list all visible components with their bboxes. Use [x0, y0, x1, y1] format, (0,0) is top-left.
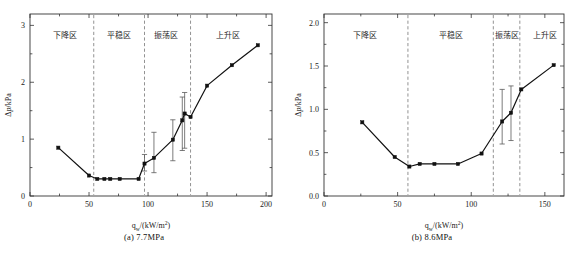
chart-panel-b: 0.00.51.01.52.0050100150下降区平稳区振荡区上升区qw/(…	[288, 0, 576, 253]
x-tick-label: 50	[85, 200, 93, 209]
data-point-marker	[501, 120, 504, 123]
plot-frame	[324, 14, 564, 196]
data-point-marker	[57, 146, 60, 149]
data-point-marker	[361, 121, 364, 124]
data-point-marker	[509, 111, 512, 114]
zone-label: 下降区	[353, 30, 377, 40]
y-tick-label: 1	[21, 135, 25, 144]
y-tick-label: 1.5	[309, 62, 319, 71]
data-point-marker	[408, 165, 411, 168]
data-point-marker	[189, 115, 192, 118]
panel-a-caption: (a) 7.7MPa	[0, 232, 288, 242]
zone-label: 振荡区	[154, 30, 178, 40]
data-point-marker	[552, 64, 555, 67]
data-series-line	[58, 45, 257, 179]
data-point-marker	[520, 88, 523, 91]
x-tick-label: 150	[539, 200, 551, 209]
data-point-marker	[205, 84, 208, 87]
data-point-marker	[171, 138, 174, 141]
zone-label: 下降区	[53, 30, 77, 40]
data-point-marker	[152, 156, 155, 159]
x-tick-label: 100	[142, 200, 154, 209]
data-point-marker	[393, 155, 396, 158]
y-tick-label: 0.5	[309, 149, 319, 158]
x-axis-superscript: 2	[165, 220, 168, 226]
x-tick-label: 0	[322, 200, 326, 209]
data-point-marker	[456, 162, 459, 165]
zone-label: 上升区	[533, 31, 557, 40]
data-point-marker	[96, 177, 99, 180]
data-point-marker	[87, 174, 90, 177]
chart-a-svg: 0123050100150200下降区平稳区振荡区上升区qw/(kW/m2)Δp…	[0, 0, 288, 253]
y-axis-title: Δp/kPa	[294, 93, 303, 117]
y-axis-p: p	[4, 108, 13, 113]
x-tick-label: 50	[394, 200, 402, 209]
figure-container: 0123050100150200下降区平稳区振荡区上升区qw/(kW/m2)Δp…	[0, 0, 577, 253]
x-axis-superscript: 2	[458, 220, 461, 226]
x-tick-label: 200	[260, 200, 272, 209]
chart-panel-a: 0123050100150200下降区平稳区振荡区上升区qw/(kW/m2)Δp…	[0, 0, 288, 253]
data-point-marker	[118, 177, 121, 180]
zone-label: 振荡区	[495, 30, 519, 40]
data-point-marker	[109, 177, 112, 180]
data-point-marker	[143, 162, 146, 165]
x-tick-label: 100	[465, 200, 477, 209]
data-point-marker	[137, 177, 140, 180]
data-point-marker	[183, 112, 186, 115]
data-point-marker	[181, 119, 184, 122]
plot-frame	[30, 14, 272, 196]
x-tick-label: 150	[201, 200, 213, 209]
data-point-marker	[418, 162, 421, 165]
zone-label: 上升区	[216, 31, 240, 40]
data-point-marker	[480, 152, 483, 155]
zone-label: 平稳区	[107, 30, 131, 40]
panel-b-caption: (b) 8.6MPa	[288, 232, 576, 242]
y-tick-label: 2	[21, 78, 25, 87]
zone-label: 平稳区	[439, 30, 463, 40]
y-tick-label: 0	[21, 192, 25, 201]
y-axis-p: p	[294, 108, 303, 113]
x-tick-label: 0	[28, 200, 32, 209]
data-point-marker	[256, 44, 259, 47]
y-tick-label: 3	[21, 21, 25, 30]
data-point-marker	[433, 162, 436, 165]
x-axis-title: qw/(kW/m2)	[425, 220, 464, 232]
y-tick-label: 1.0	[309, 105, 319, 114]
chart-b-svg: 0.00.51.01.52.0050100150下降区平稳区振荡区上升区qw/(…	[288, 0, 576, 253]
y-axis-title: Δp/kPa	[4, 93, 13, 117]
data-point-marker	[103, 177, 106, 180]
y-tick-label: 0.0	[309, 192, 319, 201]
x-axis-title: qw/(kW/m2)	[132, 220, 171, 232]
data-point-marker	[230, 64, 233, 67]
y-tick-label: 2.0	[309, 19, 319, 28]
data-series-line	[362, 65, 553, 166]
